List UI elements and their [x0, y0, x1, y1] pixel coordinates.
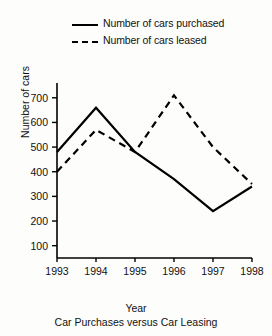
y-tick-label: 300: [30, 190, 48, 202]
x-tick-label: 1997: [201, 265, 225, 277]
chart-caption: Car Purchases versus Car Leasing: [0, 316, 272, 328]
legend-label-leased: Number of cars leased: [103, 35, 207, 46]
chart-page: Number of cars purchased Number of cars …: [0, 0, 272, 336]
y-tick-label: 500: [30, 141, 48, 153]
series-line-leased: [57, 95, 252, 184]
legend-item-leased: Number of cars leased: [72, 33, 268, 48]
y-axis-ticks: 700600500400300200100: [30, 92, 57, 252]
solid-line-icon: [72, 19, 98, 29]
x-tick-label: 1996: [162, 265, 186, 277]
line-chart-svg: 700600500400300200100 199319941995199619…: [0, 52, 272, 292]
x-tick-label: 1995: [123, 265, 147, 277]
y-tick-label: 400: [30, 166, 48, 178]
dashed-line-icon: [72, 36, 98, 46]
legend-label-purchased: Number of cars purchased: [103, 18, 224, 29]
y-tick-label: 100: [30, 240, 48, 252]
x-tick-label: 1998: [240, 265, 264, 277]
x-tick-label: 1994: [84, 265, 108, 277]
chart-plot-area: 700600500400300200100 199319941995199619…: [0, 52, 272, 292]
legend-item-purchased: Number of cars purchased: [72, 16, 268, 31]
y-axis-title: Number of cars: [19, 47, 31, 157]
y-tick-label: 600: [30, 116, 48, 128]
x-axis-title: Year: [0, 302, 272, 314]
x-tick-label: 1993: [45, 265, 69, 277]
y-tick-label: 200: [30, 215, 48, 227]
chart-legend: Number of cars purchased Number of cars …: [72, 16, 268, 50]
x-axis-ticks: 199319941995199619971998: [45, 258, 264, 277]
y-tick-label: 700: [30, 92, 48, 104]
